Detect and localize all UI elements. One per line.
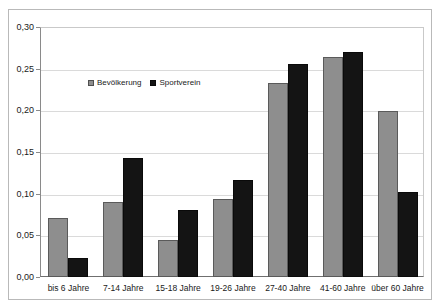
y-axis-tick-mark (36, 235, 40, 236)
bar-sportsclub (123, 158, 143, 277)
bar-population (268, 83, 288, 277)
bar-population (48, 218, 68, 277)
bar-sportsclub (343, 52, 363, 277)
bar-group (206, 27, 261, 277)
legend-swatch-sportsclub-icon (150, 80, 156, 86)
y-axis-tick-label: 0,25 (0, 65, 34, 74)
bar-group (96, 27, 151, 277)
bar-sportsclub (178, 210, 198, 277)
y-axis-tick-label: 0,30 (0, 23, 34, 32)
y-axis-tick-mark (36, 27, 40, 28)
bars-layer (41, 27, 424, 277)
y-axis-tick-mark (36, 152, 40, 153)
bar-sportsclub (288, 64, 308, 277)
bar-group (151, 27, 206, 277)
y-axis-tick-label: 0,00 (0, 273, 34, 282)
bar-group (315, 27, 370, 277)
bar-group (260, 27, 315, 277)
y-axis-tick-label: 0,10 (0, 190, 34, 199)
bar-population (158, 240, 178, 277)
bar-group (41, 27, 96, 277)
y-axis-tick-mark (36, 277, 40, 278)
legend-swatch-population-icon (88, 80, 94, 86)
bar-chart-figure: 0,000,050,100,150,200,250,30 Bevölkerung… (0, 0, 440, 308)
y-axis-tick-mark (36, 194, 40, 195)
x-axis-labels: bis 6 Jahre7-14 Jahre15-18 Jahre19-26 Ja… (41, 283, 424, 297)
legend-item-population: Bevölkerung (88, 79, 141, 87)
bar-population (378, 111, 398, 277)
legend-label-sportsclub: Sportverein (159, 79, 200, 87)
legend-label-population: Bevölkerung (97, 79, 141, 87)
legend-item-sportsclub: Sportverein (150, 79, 200, 87)
bar-group (370, 27, 425, 277)
bar-sportsclub (68, 258, 88, 277)
chart-legend: Bevölkerung Sportverein (88, 79, 200, 87)
y-axis-tick-label: 0,15 (0, 148, 34, 157)
bar-sportsclub (398, 192, 418, 277)
x-axis-tick-label: über 60 Jahre (364, 283, 431, 293)
y-axis-tick-label: 0,20 (0, 106, 34, 115)
bar-sportsclub (233, 180, 253, 278)
bar-population (323, 57, 343, 277)
bar-population (213, 199, 233, 277)
y-axis-tick-label: 0,05 (0, 231, 34, 240)
y-axis-tick-mark (36, 69, 40, 70)
y-axis-tick-mark (36, 110, 40, 111)
bar-population (103, 202, 123, 277)
